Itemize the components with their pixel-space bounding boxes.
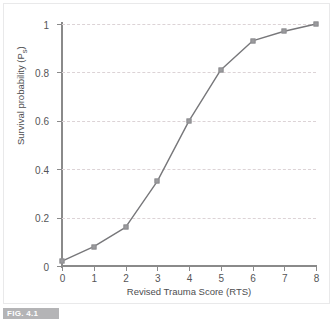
data-point-marker [155,179,160,184]
x-axis-tick-label: 4 [187,273,193,284]
x-axis-tick: 3 [157,266,158,271]
x-axis-tick-label: 1 [91,273,97,284]
x-axis-tick: 7 [284,266,285,271]
x-axis-tick-label: 5 [218,273,224,284]
data-point-marker [282,29,287,34]
x-axis-tick: 8 [316,266,317,271]
x-axis-title: Revised Trauma Score (RTS) [62,286,316,297]
x-axis-tick: 6 [253,266,254,271]
figure-caption: FIG. 4.1 [3,308,59,319]
data-point-marker [123,225,128,230]
figure-frame: Survival probability (Ps) Revised Trauma… [3,3,330,304]
x-axis-tick: 4 [189,266,190,271]
y-axis-tick-label: 0.4 [35,164,49,175]
y-axis-title-main: Survival probability (P [15,53,26,145]
series-polyline [62,24,316,261]
x-axis-tick-label: 0 [60,273,66,284]
y-axis-title-subscript: s [20,49,29,53]
x-axis-tick-label: 6 [250,273,256,284]
x-axis-tick-label: 2 [123,273,129,284]
y-axis-title: Survival probability (Ps) [15,46,29,145]
data-point-marker [218,67,223,72]
data-point-marker [187,118,192,123]
y-axis-tick-label: 0.6 [35,116,49,127]
data-point-marker [91,244,96,249]
y-axis-tick-label: 0.8 [35,67,49,78]
y-axis-tick-label: 0 [43,261,49,272]
x-axis-tick: 5 [221,266,222,271]
data-point-marker [314,22,319,27]
data-point-marker [250,38,255,43]
x-axis-tick: 2 [126,266,127,271]
data-point-marker [60,259,65,264]
plot-area: 00.20.40.60.81 012345678 [62,24,316,266]
x-axis-tick: 0 [62,266,63,271]
y-axis-tick-label: 0.2 [35,213,49,224]
series-line [62,24,316,266]
figure-page: Survival probability (Ps) Revised Trauma… [0,0,335,323]
x-axis-tick: 1 [94,266,95,271]
x-axis-tick-label: 7 [282,273,288,284]
y-axis-title-close: ) [15,46,26,49]
x-axis-tick-label: 8 [314,273,320,284]
y-axis-tick-label: 1 [43,19,49,30]
x-axis-tick-label: 3 [155,273,161,284]
